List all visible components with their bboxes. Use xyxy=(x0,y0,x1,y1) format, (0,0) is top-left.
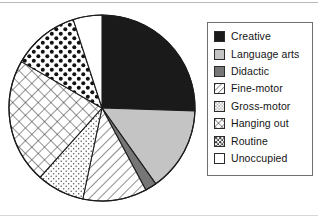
legend-item-language-arts[interactable]: Language arts xyxy=(214,45,308,62)
legend-item-didactic[interactable]: Didactic xyxy=(214,63,308,80)
legend-item-gross-motor[interactable]: Gross-motor xyxy=(214,98,308,115)
legend-swatch-icon xyxy=(214,31,225,42)
legend-swatch-icon xyxy=(214,66,225,77)
legend-label-language-arts: Language arts xyxy=(231,49,299,60)
bottom-divider-rule xyxy=(0,215,318,216)
legend-item-routine[interactable]: Routine xyxy=(214,132,308,149)
legend-label-routine: Routine xyxy=(231,136,268,147)
legend-item-hanging-out[interactable]: Hanging out xyxy=(214,115,308,132)
legend-item-creative[interactable]: Creative xyxy=(214,28,308,45)
legend-swatch-icon xyxy=(214,49,225,60)
chart-legend: Creative Language arts Didactic Fine-mot… xyxy=(207,22,313,176)
legend-label-didactic: Didactic xyxy=(231,66,269,77)
legend-swatch-icon xyxy=(214,118,225,129)
pie-chart-figure: Creative Language arts Didactic Fine-mot… xyxy=(0,0,318,216)
legend-label-unoccupied: Unoccupied xyxy=(231,153,287,164)
legend-swatch-icon xyxy=(214,83,225,94)
pie-chart-svg xyxy=(0,0,210,216)
legend-label-fine-motor: Fine-motor xyxy=(231,83,283,94)
legend-item-unoccupied[interactable]: Unoccupied xyxy=(214,150,308,167)
pie-slices-group xyxy=(9,15,195,201)
legend-item-fine-motor[interactable]: Fine-motor xyxy=(214,80,308,97)
pie-slice[interactable] xyxy=(102,15,195,111)
legend-swatch-icon xyxy=(214,153,225,164)
legend-label-gross-motor: Gross-motor xyxy=(231,101,290,112)
legend-swatch-icon xyxy=(214,136,225,147)
legend-label-hanging-out: Hanging out xyxy=(231,118,289,129)
pie-chart-area xyxy=(0,0,210,216)
legend-swatch-icon xyxy=(214,101,225,112)
legend-label-creative: Creative xyxy=(231,31,271,42)
